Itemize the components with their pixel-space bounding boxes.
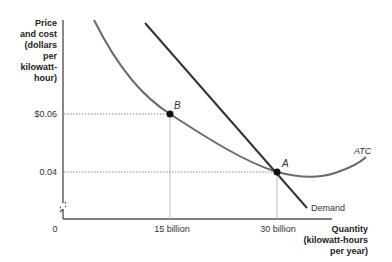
x-tick-15-billion: 15 billion: [154, 224, 190, 234]
svg-text:Quantity: Quantity: [331, 224, 368, 234]
svg-text:per year): per year): [330, 246, 368, 256]
origin-label: 0: [52, 224, 57, 234]
point-a-label: A: [281, 158, 289, 169]
svg-text:hour): hour): [34, 73, 57, 83]
svg-text:and cost: and cost: [20, 29, 57, 39]
point-b-label: B: [174, 100, 181, 111]
y-tick-006: $0.06: [34, 109, 57, 119]
x-axis-title: Quantity (kilowatt-hours per year): [304, 224, 369, 256]
x-tick-30-billion: 30 billion: [260, 224, 296, 234]
atc-label: ATC: [353, 146, 372, 156]
point-a: [274, 169, 281, 176]
point-b: [167, 111, 174, 118]
svg-text:(dollars: (dollars: [24, 40, 57, 50]
svg-text:kilowatt-: kilowatt-: [20, 62, 57, 72]
chart: B A ATC Demand $0.06 0.04 0 15 billion 3…: [0, 0, 392, 262]
y-axis-title: Price and cost (dollars per kilowatt- ho…: [20, 18, 58, 83]
atc-curve: [94, 20, 366, 177]
svg-text:(kilowatt-hours: (kilowatt-hours: [304, 235, 369, 245]
demand-label: Demand: [311, 203, 345, 213]
svg-text:Price: Price: [35, 18, 57, 28]
y-tick-004: 0.04: [39, 167, 57, 177]
svg-text:per: per: [43, 51, 58, 61]
